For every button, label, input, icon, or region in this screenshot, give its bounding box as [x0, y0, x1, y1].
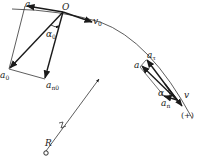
acceleration-diagram: O v0 aτ α0 a0 an0 R aτ a α an v (+) — [0, 0, 202, 168]
rect-side-left — [9, 6, 25, 69]
label-initial-velocity: v0 — [93, 16, 102, 27]
label-point-tangential-accel: aτ — [147, 50, 156, 61]
initial-angle-arc — [51, 25, 59, 27]
label-point-angle: α — [158, 88, 164, 98]
label-point-normal-accel: an — [161, 98, 170, 109]
label-point-velocity: v — [184, 90, 189, 100]
point-rect-top — [140, 60, 146, 67]
rect-side-bottom — [9, 69, 45, 79]
initial-velocity-arrow — [63, 12, 92, 22]
label-positive-direction: (+) — [181, 111, 194, 120]
label-radius: R — [44, 138, 52, 148]
label-origin: O — [62, 2, 70, 12]
center-point — [44, 151, 48, 155]
label-point-accel: a — [134, 60, 139, 70]
label-initial-tangential-accel: aτ — [25, 0, 34, 10]
label-initial-angle: α0 — [46, 29, 56, 40]
label-initial-normal-accel: an0 — [46, 80, 59, 91]
label-initial-total-accel: a0 — [0, 70, 9, 81]
